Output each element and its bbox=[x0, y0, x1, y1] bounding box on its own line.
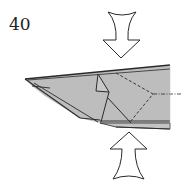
push-arrow-bottom bbox=[110, 132, 147, 179]
origami-diagram bbox=[0, 0, 189, 189]
push-arrow-top bbox=[103, 12, 140, 58]
